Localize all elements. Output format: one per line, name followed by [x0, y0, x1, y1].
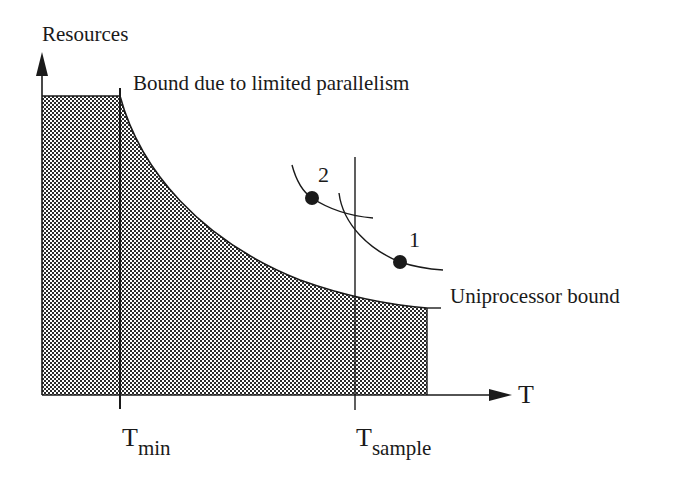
- design-point-2: [305, 191, 319, 205]
- x-axis-arrow-icon: [489, 389, 512, 401]
- tsample-sub: sample: [372, 436, 431, 460]
- y-axis-label: Resources: [42, 24, 128, 45]
- tsample-main: T: [356, 423, 372, 452]
- parallelism-bound-label: Bound due to limited parallelism: [133, 73, 409, 94]
- tmin-sub: min: [138, 436, 171, 460]
- tradeoff-curve-2: [292, 165, 373, 218]
- uniprocessor-bound-label: Uniprocessor bound: [450, 286, 620, 307]
- y-axis-arrow-icon: [36, 52, 48, 76]
- tmin-tick-label: Tmin: [122, 425, 171, 451]
- x-axis-label: T: [518, 382, 534, 408]
- point-2-label: 2: [318, 164, 329, 186]
- design-point-1: [393, 255, 407, 269]
- point-1-label: 1: [409, 229, 420, 251]
- tsample-tick-label: Tsample: [356, 425, 431, 451]
- tmin-main: T: [122, 423, 138, 452]
